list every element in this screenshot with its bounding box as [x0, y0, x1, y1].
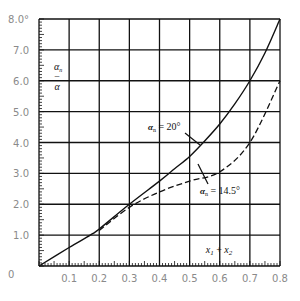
svg-text:0.7: 0.7 — [242, 273, 258, 284]
svg-text:6.0: 6.0 — [13, 76, 29, 87]
annotation-alpha-20: αn = 20° — [148, 121, 200, 145]
svg-text:0.2: 0.2 — [91, 273, 107, 284]
svg-text:αn = 20°: αn = 20° — [148, 121, 181, 133]
tick-labels: 0.10.20.30.40.50.60.70.801.02.03.04.05.0… — [8, 14, 288, 284]
chart: 0.10.20.30.40.50.60.70.801.02.03.04.05.0… — [0, 0, 300, 301]
svg-text:0.4: 0.4 — [152, 273, 168, 284]
svg-text:0: 0 — [8, 269, 14, 280]
svg-text:8.0°: 8.0° — [8, 14, 29, 25]
svg-text:0.3: 0.3 — [121, 273, 137, 284]
svg-text:1.0: 1.0 — [13, 230, 29, 241]
x-axis-label: x1 + x2 — [205, 244, 233, 257]
grid — [39, 19, 280, 266]
svg-text:0.5: 0.5 — [182, 273, 198, 284]
svg-text:2.0: 2.0 — [13, 199, 29, 210]
svg-text:αn = 14.5°: αn = 14.5° — [200, 185, 240, 197]
annotation-alpha-14-5: αn = 14.5° — [198, 164, 240, 197]
svg-text:0.1: 0.1 — [61, 273, 77, 284]
svg-text:0.8: 0.8 — [272, 273, 288, 284]
svg-text:5.0: 5.0 — [13, 107, 29, 118]
svg-text:α: α — [54, 81, 60, 92]
svg-text:0.6: 0.6 — [212, 273, 228, 284]
svg-text:7.0: 7.0 — [13, 45, 29, 56]
y-axis-label: αn − α — [54, 61, 62, 92]
svg-text:3.0: 3.0 — [13, 168, 29, 179]
svg-text:4.0: 4.0 — [13, 138, 29, 149]
